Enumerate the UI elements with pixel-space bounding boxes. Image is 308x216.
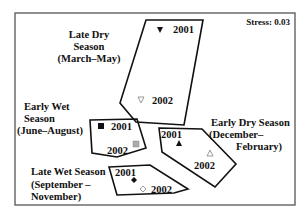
- early-dry-2001-label: 2001: [161, 129, 182, 140]
- late-dry-2002-marker-icon: [138, 97, 144, 103]
- svg-text:Early Wet: Early Wet: [24, 101, 70, 112]
- early-dry-2001-marker-icon: [176, 140, 182, 146]
- stress-label: Stress: 0.03: [246, 17, 290, 27]
- early-wet-label: Early Wet Season (June–August): [17, 101, 83, 137]
- late-dry-2001-label: 2001: [173, 24, 194, 35]
- late-wet-2001-label: 2001: [115, 167, 136, 178]
- svg-text:Season: Season: [24, 113, 55, 124]
- late-dry-hull: [120, 20, 203, 125]
- svg-text:(December–: (December–: [209, 129, 264, 141]
- svg-text:Early Dry Season: Early Dry Season: [211, 117, 290, 128]
- early-wet-2001-label: 2001: [111, 121, 132, 132]
- early-wet-2002-label: 2002: [107, 145, 128, 156]
- late-dry-2002-label: 2002: [152, 95, 173, 106]
- svg-text:February): February): [236, 141, 283, 153]
- svg-text:November): November): [31, 191, 82, 203]
- late-wet-label: Late Wet Season (September – November): [31, 166, 106, 203]
- late-wet-2002-label: 2002: [151, 184, 172, 195]
- svg-text:(March–May): (March–May): [58, 53, 121, 65]
- late-wet-2002-marker-icon: [140, 186, 146, 192]
- late-dry-label: Late Dry Season (March–May): [58, 29, 121, 65]
- early-dry-2002-label: 2002: [194, 160, 215, 171]
- early-wet-2001-marker-icon: [98, 123, 104, 129]
- ordination-plot: Stress: 0.03 Late Dry Season (March–May)…: [0, 0, 308, 216]
- early-wet-2002-marker-icon: [133, 141, 139, 147]
- early-dry-2002-marker-icon: [207, 150, 213, 156]
- svg-text:Late Dry: Late Dry: [69, 29, 110, 40]
- svg-text:Season: Season: [74, 41, 105, 52]
- svg-text:(September –: (September –: [31, 179, 91, 191]
- svg-text:Late Wet Season: Late Wet Season: [31, 166, 106, 177]
- late-dry-2001-marker-icon: [157, 27, 163, 33]
- svg-text:(June–August): (June–August): [17, 125, 83, 137]
